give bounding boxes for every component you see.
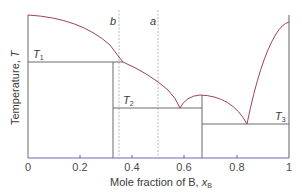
x-tick-labels: 0 0.2 0.4 0.6 0.8 1 [25, 161, 292, 173]
phase-diagram-chart: b a T1 T2 T3 0 0.2 0.4 0.6 0.8 1 Mole fr… [0, 0, 302, 194]
compound-dome [180, 95, 247, 124]
svg-text:0.6: 0.6 [176, 161, 191, 173]
svg-text:1: 1 [286, 161, 292, 173]
y-axis-label: Temperature, T [9, 49, 21, 125]
label-a: a [150, 15, 156, 27]
svg-text:0: 0 [25, 161, 31, 173]
label-t1: T1 [33, 48, 44, 61]
label-b: b [110, 15, 116, 27]
svg-text:0.4: 0.4 [124, 161, 139, 173]
svg-text:0.2: 0.2 [72, 161, 87, 173]
svg-text:0.8: 0.8 [229, 161, 244, 173]
liquidus-b-side [247, 22, 289, 124]
label-t3: T3 [275, 110, 286, 123]
label-t2: T2 [123, 94, 134, 107]
x-axis-label: Mole fraction of B, xB [110, 176, 212, 189]
